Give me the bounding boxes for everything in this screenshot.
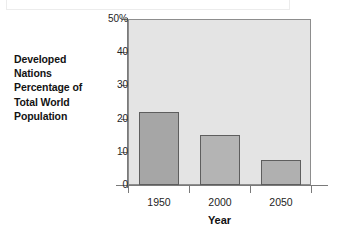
y-axis-label-wrap: 20 xyxy=(86,114,128,115)
x-axis-tick-0 xyxy=(128,186,129,193)
chart-side-label-line-3: Percentage of xyxy=(14,80,96,94)
y-axis-line xyxy=(127,18,128,188)
x-axis-tick-2 xyxy=(250,186,251,193)
x-axis-label-2000: 2000 xyxy=(195,196,245,208)
x-axis-title: Year xyxy=(128,214,311,226)
y-axis-label-wrap: 30 xyxy=(86,80,128,81)
x-axis-tick-1 xyxy=(189,186,190,193)
chart-side-label-line-4: Total World xyxy=(14,95,96,109)
bar-2050 xyxy=(261,160,301,185)
y-axis-label-40: 40 xyxy=(96,47,128,57)
y-axis-label-10: 10 xyxy=(96,147,128,157)
y-axis-label-wrap: 40 xyxy=(86,47,128,48)
x-axis-tick-3 xyxy=(311,186,312,193)
y-axis-label-50: 50% xyxy=(96,14,128,24)
x-axis-line xyxy=(116,185,328,186)
y-axis-label-wrap: 50% xyxy=(86,14,128,15)
page-frame-edge xyxy=(6,0,290,10)
chart-side-label-line-2: Nations xyxy=(14,66,96,80)
bar-1950 xyxy=(139,112,179,185)
y-axis-label-wrap: 10 xyxy=(86,147,128,148)
chart-side-label-line-5: Population xyxy=(14,109,96,123)
y-axis-label-20: 20 xyxy=(96,114,128,124)
y-axis-label-wrap: 0 xyxy=(86,180,128,181)
chart-side-label-line-1: Developed xyxy=(14,52,96,66)
x-axis-label-2050: 2050 xyxy=(256,196,306,208)
y-axis-label-0: 0 xyxy=(96,180,128,190)
y-axis-label-30: 30 xyxy=(96,80,128,90)
x-axis-label-1950: 1950 xyxy=(134,196,184,208)
bar-2000 xyxy=(200,135,240,185)
chart-side-label: Developed Nations Percentage of Total Wo… xyxy=(14,52,96,123)
